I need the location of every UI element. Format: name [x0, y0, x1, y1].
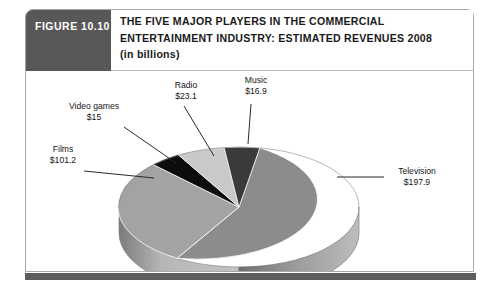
pie-label-radio: Radio $23.1 [159, 80, 213, 101]
figure-title-line-3: (in billions) [120, 46, 465, 63]
pie-label-films-value: $101.2 [35, 155, 91, 166]
figure-number-label: FIGURE 10.10 [35, 20, 110, 32]
figure-bottom-bar [25, 273, 476, 280]
leader-line-music [248, 104, 251, 144]
pie-label-video-games: Video games $15 [64, 101, 124, 122]
pie-label-television: Television $197.9 [386, 166, 448, 187]
leader-line-video-games [124, 127, 176, 163]
pie-label-films: Films $101.2 [35, 144, 91, 165]
figure-title: THE FIVE MAJOR PLAYERS IN THE COMMERCIAL… [120, 13, 465, 63]
figure-container: FIGURE 10.10 THE FIVE MAJOR PLAYERS IN T… [0, 0, 499, 302]
pie-label-radio-name: Radio [175, 80, 197, 90]
figure-title-line-1: THE FIVE MAJOR PLAYERS IN THE COMMERCIAL [120, 13, 465, 30]
figure-number-badge: FIGURE 10.10 [26, 10, 111, 71]
pie-label-music-name: Music [245, 75, 267, 85]
pie-label-films-name: Films [53, 144, 74, 154]
pie-chart-plot-area: Music $16.9 Radio $23.1 Video games $15 … [26, 71, 473, 271]
pie-label-radio-value: $23.1 [159, 91, 213, 102]
pie-label-music: Music $16.9 [226, 75, 286, 96]
pie-label-television-value: $197.9 [386, 177, 448, 188]
leader-line-radio [184, 106, 214, 156]
pie-label-video-games-value: $15 [64, 112, 124, 123]
pie-label-television-name: Television [398, 166, 436, 176]
pie-label-video-games-name: Video games [69, 101, 119, 111]
figure-title-line-2: ENTERTAINMENT INDUSTRY: ESTIMATED REVENU… [120, 30, 465, 47]
pie-label-music-value: $16.9 [226, 86, 286, 97]
